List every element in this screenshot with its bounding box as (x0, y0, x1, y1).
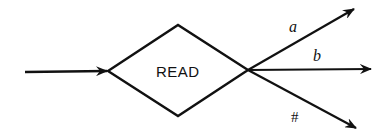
branch-label-b: b (313, 48, 321, 64)
input-arrow (25, 71, 107, 72)
branch-arrow-b (248, 69, 371, 70)
node-label-read: READ (156, 64, 200, 79)
branch-label-hash: # (291, 110, 299, 125)
branch-label-a: a (289, 19, 297, 35)
branch-arrow-a (248, 9, 354, 70)
branch-arrow-hash (248, 70, 356, 128)
diagram-canvas: READ a b # (0, 0, 389, 135)
